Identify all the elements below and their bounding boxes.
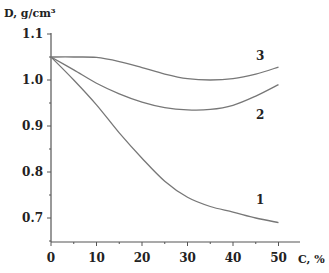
- y-tick-label: 1.1: [22, 27, 43, 41]
- curve-label-1: 1: [256, 193, 264, 207]
- curve-label-3: 3: [256, 49, 264, 63]
- x-tick-label: 20: [134, 251, 151, 265]
- curve-label-2: 2: [256, 108, 264, 122]
- y-tick-label: 1.0: [22, 73, 43, 87]
- x-tick-label: 30: [179, 251, 196, 265]
- x-tick-label: 0: [47, 251, 55, 265]
- y-tick-label: 0.9: [22, 119, 43, 133]
- x-tick-label: 50: [270, 251, 287, 265]
- curve-1: [51, 57, 279, 223]
- x-tick-label: 10: [88, 251, 105, 265]
- density-vs-concentration-chart: D, g/cm³ C, % 0.70.80.91.01.101020304050…: [0, 0, 329, 273]
- y-axis-title: D, g/cm³: [4, 7, 56, 20]
- curves: [51, 57, 279, 223]
- x-tick-label: 40: [225, 251, 242, 265]
- curve-2: [51, 57, 279, 110]
- y-tick-label: 0.8: [22, 165, 43, 179]
- x-axis-title: C, %: [298, 253, 325, 266]
- y-tick-label: 0.7: [22, 211, 43, 225]
